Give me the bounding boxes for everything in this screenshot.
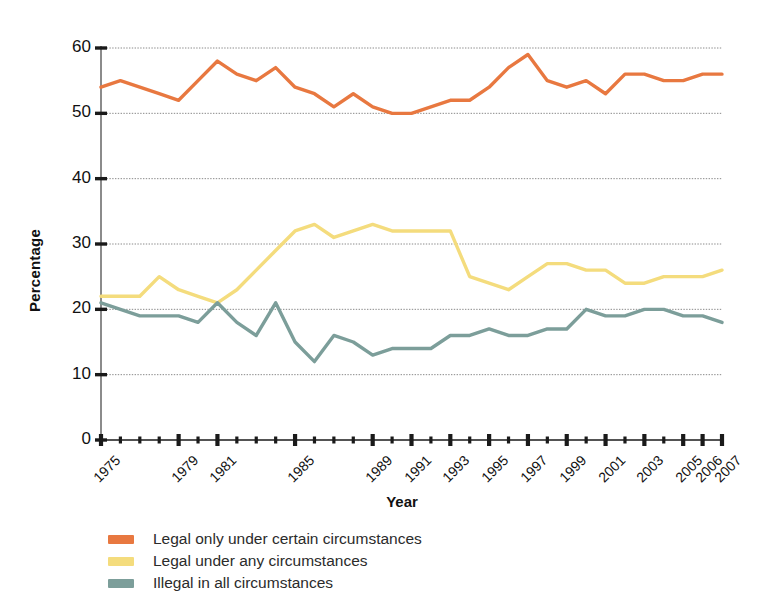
y-tick-label: 50 [45,102,91,122]
y-tick-label: 20 [45,298,91,318]
legend-color-swatch [108,557,134,566]
y-tick-label: 30 [45,233,91,253]
y-tick-label: 40 [45,168,91,188]
x-axis-title: Year [0,493,758,510]
chart-canvas: 0102030405060 19751979198119851989199119… [0,0,758,603]
legend-label: Legal under any circumstances [153,552,368,570]
axis-lines [101,46,722,440]
chart-page: 0102030405060 19751979198119851989199119… [0,0,758,603]
legend-item[interactable]: Illegal in all circumstances [108,572,422,594]
legend-color-swatch [108,535,134,544]
legend-item[interactable]: Legal under any circumstances [108,550,422,572]
legend-label: Legal only under certain circumstances [153,530,422,548]
y-tick-label: 10 [45,364,91,384]
legend-item[interactable]: Legal only under certain circumstances [108,528,422,550]
chart-plot-svg [0,0,758,603]
y-tick-label: 60 [45,37,91,57]
y-tick-label: 0 [45,429,91,449]
gridlines [101,48,722,375]
y-axis-title: Percentage [26,201,43,341]
chart-legend: Legal only under certain circumstancesLe… [108,528,422,594]
data-series-group [101,55,722,362]
legend-color-swatch [108,579,134,588]
legend-label: Illegal in all circumstances [153,574,333,592]
